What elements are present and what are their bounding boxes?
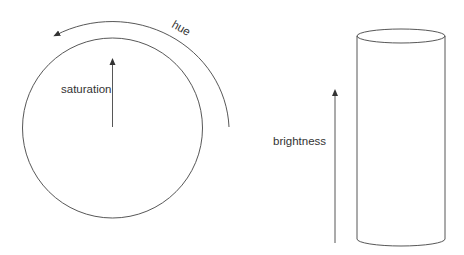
- saturation-label: saturation: [61, 83, 112, 95]
- hsb-diagram: hue saturation brightness: [0, 0, 464, 255]
- brightness-label: brightness: [273, 135, 326, 147]
- hue-arc-arrow: [56, 22, 229, 127]
- diagram-canvas: [0, 0, 464, 255]
- brightness-cylinder: [357, 29, 445, 246]
